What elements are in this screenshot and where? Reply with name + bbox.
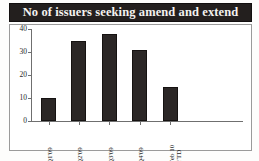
x-tick-label-line: YTD <box>176 150 184 161</box>
y-tick-mark <box>28 75 32 76</box>
x-tick-label-line: Q1'09 <box>47 147 55 161</box>
chart-title-bar: No of issuers seeking amend and extend <box>9 3 252 22</box>
x-tick-label: Q1'09 <box>43 126 53 161</box>
x-tick-mark <box>170 122 171 125</box>
y-tick-label: 0 <box>12 117 27 125</box>
bar <box>71 41 86 122</box>
plot-frame: 010203040 Q1'09Q2'09Q3'09Q4'09Feb 10YTD … <box>9 24 252 151</box>
y-tick-mark <box>28 29 32 30</box>
x-tick-mark <box>109 122 110 125</box>
x-tick-mark <box>140 122 141 125</box>
x-tick-label-line: Q3'09 <box>108 147 116 161</box>
x-tick-label-line: Q2'09 <box>77 147 85 161</box>
bar <box>102 34 117 121</box>
x-tick-mark <box>79 122 80 125</box>
x-tick-mark <box>49 122 50 125</box>
y-tick-label: 10 <box>12 94 27 102</box>
chart-figure: No of issuers seeking amend and extend 0… <box>0 0 259 161</box>
x-tick-label: Q4'09 <box>134 126 144 161</box>
bar <box>41 98 56 121</box>
y-tick-label: 20 <box>12 71 27 79</box>
page-title: No of issuers seeking amend and extend <box>23 6 239 19</box>
x-axis-line <box>31 121 243 122</box>
y-tick-mark <box>28 121 32 122</box>
x-tick-label: Q2'09 <box>73 126 83 161</box>
x-tick-label: Q3'09 <box>104 126 114 161</box>
y-tick-mark <box>28 52 32 53</box>
bar <box>163 87 178 122</box>
y-tick-label: 30 <box>12 48 27 56</box>
y-tick-mark <box>28 98 32 99</box>
bar <box>132 50 147 121</box>
y-tick-label: 40 <box>12 25 27 33</box>
x-tick-label-line: Q4'09 <box>138 147 146 161</box>
x-tick-label: Feb 10YTD <box>165 126 175 161</box>
